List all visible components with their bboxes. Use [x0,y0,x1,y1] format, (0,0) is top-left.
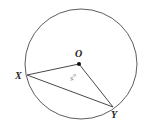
circle-diagram: O X Y x° [0,0,149,129]
angle-label: x° [68,72,79,83]
label-o: O [75,48,82,59]
label-x: X [14,70,22,81]
label-y: Y [111,109,118,120]
center-point [77,62,81,66]
